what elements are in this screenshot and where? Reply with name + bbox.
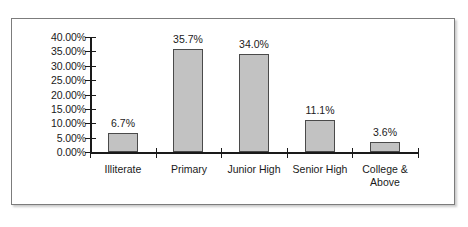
bar-value-label: 34.0%	[224, 39, 284, 50]
chart-figure: 0.00%5.00%10.00%15.00%20.00%25.00%30.00%…	[0, 0, 468, 227]
y-axis-tick-label: 40.00%	[30, 32, 86, 43]
x-axis-tick-mark	[90, 148, 91, 158]
y-axis-tick-label: 10.00%	[30, 118, 86, 129]
y-axis-tick-label: 30.00%	[30, 61, 86, 72]
y-axis-tick-label: 0.00%	[30, 147, 86, 158]
bar	[173, 49, 203, 152]
x-axis-tick-mark	[221, 148, 222, 158]
y-axis-tick-label: 20.00%	[30, 90, 86, 101]
bar-chart-plot-area: 0.00%5.00%10.00%15.00%20.00%25.00%30.00%…	[0, 0, 468, 227]
bar	[239, 54, 269, 152]
y-axis-tick-label: 5.00%	[30, 133, 86, 144]
y-axis-tick-label: 35.00%	[30, 46, 86, 57]
x-axis-category-label-line: Primary	[156, 163, 222, 176]
bar-value-label: 35.7%	[158, 34, 218, 45]
x-axis-category-label-line: College &	[352, 163, 418, 176]
x-axis-category-label: College &Above	[352, 163, 418, 188]
bar-value-label: 3.6%	[355, 127, 415, 138]
x-axis-category-label: Primary	[156, 163, 222, 176]
x-axis-tick-mark	[418, 148, 419, 158]
y-axis-tick-label: 25.00%	[30, 75, 86, 86]
x-axis-tick-mark	[156, 148, 157, 158]
x-axis-line	[90, 152, 418, 154]
x-axis-category-label: Junior High	[221, 163, 287, 176]
bar-value-label: 6.7%	[93, 118, 153, 129]
bar	[305, 120, 335, 152]
bar-value-label: 11.1%	[290, 105, 350, 116]
bar	[108, 133, 138, 152]
x-axis-category-label-line: Illiterate	[90, 163, 156, 176]
y-axis-line	[90, 37, 92, 153]
x-axis-category-label-line: Above	[352, 176, 418, 189]
y-axis-tick-label: 15.00%	[30, 104, 86, 115]
x-axis-tick-mark	[352, 148, 353, 158]
x-axis-tick-mark	[287, 148, 288, 158]
bar	[370, 142, 400, 152]
y-axis-tick-labels: 0.00%5.00%10.00%15.00%20.00%25.00%30.00%…	[28, 0, 86, 227]
x-axis-category-label-line: Junior High	[221, 163, 287, 176]
x-axis-category-label-line: Senior High	[287, 163, 353, 176]
x-axis-category-label: Senior High	[287, 163, 353, 176]
x-axis-category-label: Illiterate	[90, 163, 156, 176]
